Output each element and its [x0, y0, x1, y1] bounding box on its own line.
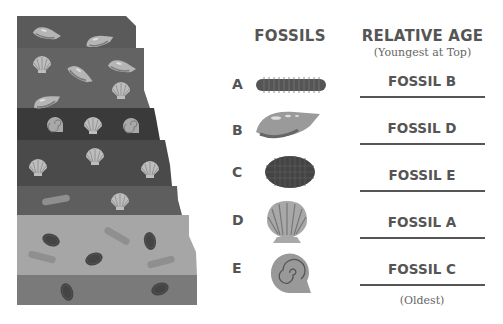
- segmented-worm-icon: [254, 76, 328, 94]
- trilobite-icon: [263, 155, 317, 189]
- answer-2: FOSSIL D: [358, 120, 486, 136]
- answer-line-4: [360, 237, 485, 239]
- spiral-cone-shell-icon: [254, 108, 324, 142]
- relative-age-header: RELATIVE AGE: [355, 27, 490, 45]
- fossil-letter-b: B: [232, 122, 243, 138]
- scallop-shell-icon: [263, 199, 311, 245]
- answer-5: FOSSIL C: [358, 261, 486, 277]
- fossil-letter-e: E: [232, 260, 242, 276]
- fossil-letter-d: D: [232, 212, 244, 228]
- fossil-letter-a: A: [232, 76, 243, 92]
- relative-age-subheader: (Youngest at Top): [355, 46, 490, 59]
- rock-strata-diagram: [0, 0, 200, 324]
- answer-1: FOSSIL B: [358, 73, 486, 89]
- answer-4: FOSSIL A: [358, 214, 486, 230]
- fossils-header: FOSSILS: [245, 27, 335, 45]
- answer-3: FOSSIL E: [358, 167, 486, 183]
- answer-line-3: [360, 190, 485, 192]
- ammonite-icon: [267, 251, 313, 297]
- answer-line-2: [360, 143, 485, 145]
- fossil-letter-c: C: [232, 164, 242, 180]
- answer-line-5: [360, 284, 485, 286]
- answer-line-1: [360, 96, 485, 98]
- oldest-note: (Oldest): [358, 294, 486, 307]
